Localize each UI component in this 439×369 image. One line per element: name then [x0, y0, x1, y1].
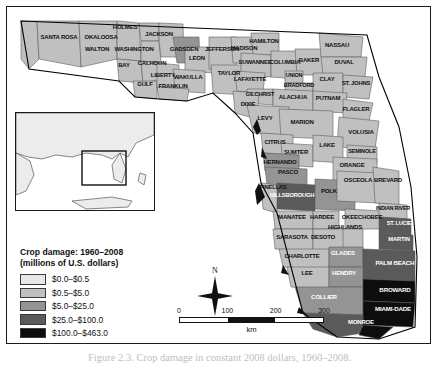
county-label: DESOTO: [311, 234, 336, 240]
county-label: DUVAL: [334, 59, 354, 65]
legend-label-1: $0.0–$0.5: [52, 274, 89, 284]
map-frame: SANTA ROSAOKALOOSAWALTONHOLMESWASHINGTON…: [6, 6, 431, 344]
scale-tick-300: 300: [318, 307, 330, 314]
scale-bar-segment: [275, 318, 323, 322]
scale-tick-100: 100: [221, 307, 233, 314]
county-label: CITRUS: [264, 139, 285, 145]
legend-label-2: $0.5–$5.0: [52, 288, 89, 298]
county-label: MADISON: [231, 45, 258, 51]
county-label: LAKE: [319, 142, 335, 148]
county-label: HENDRY: [332, 270, 356, 276]
county-label: LEE: [301, 270, 312, 276]
county-label: SANTA ROSA: [40, 34, 78, 40]
scale-bar: 0100200300 km: [179, 307, 324, 334]
county-label: COLLIER: [311, 293, 337, 300]
county-label: PINELLAS: [259, 184, 286, 190]
county-label: SARASOTA: [276, 234, 308, 240]
county-label: HOLMES: [113, 24, 138, 30]
county-label: COLUMBIA: [270, 59, 302, 65]
county-label: GILCHRIST: [246, 91, 275, 97]
county-label: HERNANDO: [263, 159, 297, 165]
figure-caption: Figure 2.3. Crop damage in constant 2008…: [0, 352, 439, 363]
scale-bar-unit: km: [179, 325, 324, 334]
county-label: LEVY: [258, 115, 273, 121]
scale-bar-segment: [228, 318, 276, 322]
county-label: HARDEE: [310, 214, 334, 220]
county-label: LEON: [189, 55, 205, 61]
county-label: GLADES: [331, 250, 355, 256]
county-label: BRADFORD: [284, 82, 315, 88]
county-label: LIBERTY: [151, 72, 175, 78]
inset-svg: [16, 113, 154, 210]
scale-tick-200: 200: [270, 307, 282, 314]
county-label: GADSDEN: [170, 46, 199, 52]
county-label: BAKER: [299, 57, 320, 63]
scale-tick-0: 0: [177, 307, 181, 314]
county-label: BAY: [118, 62, 130, 68]
county-label: BROWARD: [379, 286, 411, 293]
scale-bar-ticks: 0100200300: [179, 307, 324, 317]
legend-row: $0.5–$5.0: [20, 287, 175, 299]
map-figure: SANTA ROSAOKALOOSAWALTONHOLMESWASHINGTON…: [0, 0, 439, 369]
county-label: MARION: [290, 119, 313, 125]
county-label: CALHOUN: [138, 60, 167, 66]
legend-label-4: $25.0–$100.0: [52, 315, 103, 325]
county-label: PUTNAM: [316, 95, 341, 101]
county-label: PASCO: [278, 169, 298, 175]
county-label: OSCEOLA: [344, 177, 373, 183]
legend-label-3: $5.0–$25.0: [52, 301, 94, 311]
county-label: HAMILTON: [249, 38, 279, 44]
county-label: MIAMI-DADE: [375, 305, 411, 312]
scale-bar-segments: [179, 317, 324, 323]
county-label: ST. JOHNS: [342, 80, 370, 86]
scale-bar-segment: [180, 318, 228, 322]
county-label: NASSAU: [325, 42, 349, 48]
county-label: FRANKLIN: [158, 83, 187, 89]
legend-row: $25.0–$100.0: [20, 313, 175, 325]
legend-title: Crop damage: 1960–2008 (millions of U.S.…: [20, 247, 175, 268]
county-label: OKEECHOBEE: [342, 214, 383, 220]
legend-row: $100.0–$463.0: [20, 327, 175, 339]
legend-swatch-3: [20, 301, 46, 312]
county-label: DIXIE: [241, 101, 256, 107]
legend-title-line1: Crop damage: 1960–2008: [20, 247, 123, 257]
county-label: OKALOOSA: [84, 34, 118, 40]
county-label: HIGHLANDS: [328, 224, 362, 230]
county-label: INDIAN RIVER: [376, 205, 410, 211]
county-label: PALM BEACH: [376, 259, 416, 266]
county-label: MONROE: [348, 319, 374, 325]
county-label: WASHINGTON: [114, 46, 153, 52]
county-label: ORANGE: [339, 162, 364, 168]
legend-title-line2: (millions of U.S. dollars): [20, 258, 118, 268]
county-label: WAKULLA: [174, 74, 203, 80]
inset-locator-map: [15, 112, 155, 211]
legend-swatch-4: [20, 314, 46, 325]
county-label: MANATEE: [278, 214, 306, 220]
legend: Crop damage: 1960–2008 (millions of U.S.…: [15, 241, 175, 344]
county-label: FLAGLER: [343, 106, 371, 112]
legend-class-list: $0.0–$0.5$0.5–$5.0$5.0–$25.0$25.0–$100.0…: [15, 273, 175, 339]
legend-swatch-1: [20, 274, 46, 285]
county-label: LAFAYETTE: [234, 76, 267, 82]
county-label: WALTON: [85, 46, 109, 52]
legend-row: $5.0–$25.0: [20, 300, 175, 312]
county-label: BREVARD: [374, 177, 403, 183]
county-label: CLAY: [320, 76, 335, 82]
legend-row: $0.0–$0.5: [20, 273, 175, 285]
county-label: SEMINOLE: [348, 148, 376, 154]
county-label: VOLUSIA: [348, 129, 374, 135]
county-label: SUMTER: [284, 149, 309, 155]
north-arrow-label: N: [212, 266, 218, 275]
county-label: MARTIN: [388, 236, 409, 242]
north-arrow: N: [197, 267, 233, 311]
legend-label-5: $100.0–$463.0: [52, 328, 108, 338]
county-label: HILLSBOROUGH: [270, 192, 315, 198]
county-label: ALACHUA: [279, 94, 308, 100]
county-label: UNION: [286, 72, 303, 78]
legend-swatch-5: [20, 328, 46, 339]
county-label: GULF: [137, 81, 153, 87]
county-label: ST. LUCIE: [387, 220, 412, 226]
county-label: POLK: [321, 188, 338, 194]
county-label: SUWANNEE: [238, 59, 271, 65]
legend-swatch-2: [20, 288, 46, 299]
